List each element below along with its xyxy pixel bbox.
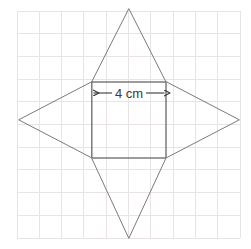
pyramid-net-diagram: 4 cm: [0, 0, 251, 249]
figure-root: 4 cm: [0, 0, 251, 249]
dimension-label: 4 cm: [115, 86, 143, 101]
